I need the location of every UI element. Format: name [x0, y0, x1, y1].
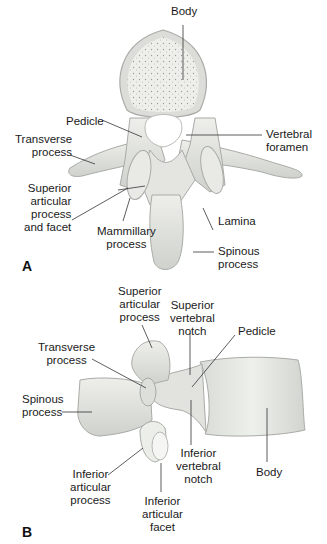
label-b-spinous-process: Spinous process: [22, 393, 64, 419]
label-b-superior-vertebral-notch: Superior vertebral notch: [170, 299, 215, 338]
label-a-superior-articular-process-and-facet: Superior articular process and facet: [24, 182, 71, 234]
label-b-pedicle: Pedicle: [238, 325, 276, 338]
label-b-transverse-process: Transverse process: [38, 341, 95, 367]
panel-label-a: A: [22, 258, 32, 274]
label-a-transverse-process: Transverse process: [15, 133, 72, 159]
panel-label-b: B: [22, 524, 32, 540]
label-a-lamina: Lamina: [218, 215, 256, 228]
label-a-vertebral-foramen: Vertebral foramen: [266, 128, 312, 154]
label-a-spinous-process: Spinous process: [218, 245, 260, 271]
label-a-mammillary-process: Mammillary process: [97, 225, 156, 251]
label-b-inferior-articular-facet: Inferior articular facet: [142, 495, 183, 534]
label-b-inferior-articular-process: Inferior articular process: [70, 468, 111, 507]
label-a-body: Body: [171, 5, 197, 18]
label-b-body: Body: [256, 466, 282, 479]
vertebra-illustration: [0, 0, 327, 544]
label-b-inferior-vertebral-notch: Inferior vertebral notch: [176, 447, 221, 486]
label-b-superior-articular-process: Superior articular process: [118, 285, 161, 324]
label-a-pedicle: Pedicle: [66, 115, 104, 128]
